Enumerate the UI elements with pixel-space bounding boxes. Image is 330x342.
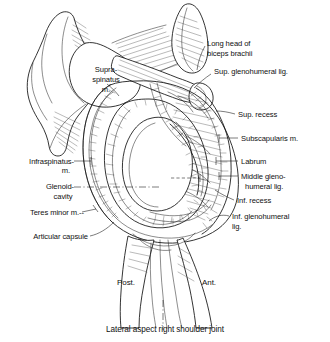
label-inf-recess: Inf. recess bbox=[237, 196, 271, 205]
label-infraspinatus-line1: Infraspinatus- bbox=[29, 157, 74, 166]
label-inf-glenohumeral-lig-line1: Inf. glenohumeral bbox=[232, 212, 290, 221]
label-supraspinatus-line1: Supra- bbox=[95, 65, 118, 74]
label-articular-capsule: Articular capsule bbox=[33, 232, 88, 241]
label-labrum: Labrum bbox=[241, 157, 266, 166]
label-anterior: Ant. bbox=[202, 278, 216, 287]
label-supraspinatus-line3: m. bbox=[102, 85, 110, 94]
label-supraspinatus-line2: spinatus bbox=[92, 75, 120, 84]
label-long-head-biceps-line1: Long head of bbox=[207, 39, 251, 48]
label-infraspinatus-line2: m. bbox=[62, 166, 70, 175]
label-middle-glenohumeral-lig-line2: humeral lig. bbox=[245, 182, 283, 191]
glenoid-cavity bbox=[122, 117, 192, 211]
label-sup-glenohumeral-lig: Sup. glenohumeral lig. bbox=[214, 67, 288, 76]
label-teres-minor: Teres minor m.-- bbox=[30, 208, 85, 217]
label-inf-glenohumeral-lig-line2: lig. bbox=[232, 222, 241, 231]
label-posterior: Post. bbox=[117, 278, 135, 287]
label-glenoid-cavity-line1: Glenoid- bbox=[46, 182, 75, 191]
label-sup-recess: Sup. recess bbox=[238, 110, 278, 119]
label-long-head-biceps-line2: biceps brachii bbox=[207, 49, 253, 58]
coracoid-process bbox=[172, 4, 208, 73]
label-subscapularis: Subscapularis m. bbox=[241, 134, 298, 143]
label-middle-glenohumeral-lig-line1: Middle gleno- bbox=[241, 172, 286, 181]
figure-caption: Lateral aspect right shoulder joint bbox=[106, 325, 225, 334]
label-glenoid-cavity-line2: cavity bbox=[54, 192, 73, 201]
shoulder-joint-illustration: Supra- spinatus m. Infraspinatus- m. Gle… bbox=[0, 0, 330, 342]
anatomical-figure: Supra- spinatus m. Infraspinatus- m. Gle… bbox=[0, 0, 330, 342]
